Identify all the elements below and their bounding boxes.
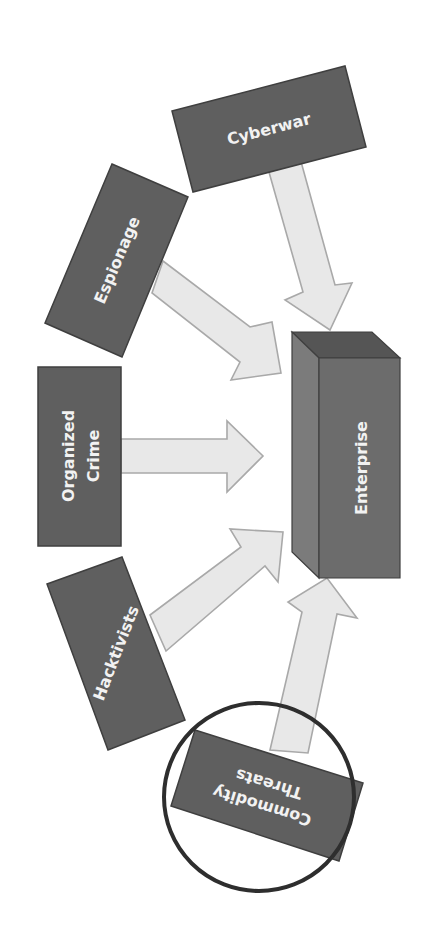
arrow-commodity-threats-to-enterprise <box>270 578 357 753</box>
arrow-espionage-to-enterprise <box>152 261 281 380</box>
organized-crime-label-line2: Crime <box>84 430 103 483</box>
threat-diagram: Enterprise Cyberwar Espionage Organized … <box>0 0 433 936</box>
arrow-cyberwar-to-enterprise <box>267 158 352 330</box>
arrow-hacktivists-to-enterprise <box>150 529 283 651</box>
source-hacktivists: Hacktivists <box>47 557 185 750</box>
enterprise-side-face <box>292 332 319 578</box>
enterprise-label: Enterprise <box>352 421 371 515</box>
source-organized-crime: Organized Crime <box>38 367 121 546</box>
enterprise-block: Enterprise <box>292 332 400 578</box>
arrow-organized-crime-to-enterprise <box>121 421 263 492</box>
source-espionage: Espionage <box>45 164 188 357</box>
source-commodity-threats: Commodity Threats <box>171 730 363 861</box>
organized-crime-label-line1: Organized <box>59 410 78 502</box>
